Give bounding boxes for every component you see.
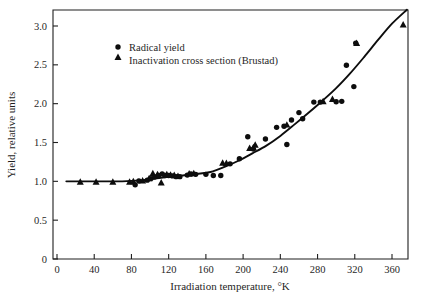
x-axis-tick-labels: 04080120160200240280320360 [54, 264, 400, 275]
y-tick-label: 2.0 [34, 98, 47, 109]
data-point-circle [311, 99, 316, 104]
data-point-circle [203, 172, 208, 177]
data-point-circle [353, 40, 358, 45]
data-point-circle [245, 134, 250, 139]
legend-marker-circle-icon [115, 44, 120, 49]
data-point-circle [300, 116, 305, 121]
data-point-circle [351, 84, 356, 89]
y-tick-label: 1.5 [34, 137, 47, 148]
legend-label-inactivation-cross-section: Inactivation cross section (Brustad) [129, 55, 279, 67]
x-tick-label: 80 [126, 264, 137, 275]
legend-label-radical-yield: Radical yield [129, 42, 185, 53]
x-tick-label: 120 [161, 264, 177, 275]
data-point-circle [333, 99, 338, 104]
data-point-circle [211, 173, 216, 178]
data-point-circle [289, 117, 294, 122]
y-axis-title: Yield, relative units [5, 92, 17, 178]
data-point-circle [132, 182, 137, 187]
data-point-circle [237, 156, 242, 161]
x-tick-label: 0 [54, 264, 59, 275]
x-tick-label: 320 [347, 264, 363, 275]
figure-container: 04080120160200240280320360 00.51.01.52.0… [0, 0, 423, 302]
y-tick-label: 0.5 [34, 215, 47, 226]
chart-canvas: 04080120160200240280320360 00.51.01.52.0… [0, 0, 423, 302]
series-inactivation-cross-section-markers [77, 21, 407, 186]
y-axis-tick-labels: 00.51.01.52.02.53.0 [34, 21, 47, 265]
data-point-circle [318, 99, 323, 104]
data-point-circle [177, 174, 182, 179]
y-tick-label: 3.0 [34, 21, 47, 32]
x-tick-label: 160 [198, 264, 214, 275]
x-tick-label: 40 [89, 264, 100, 275]
data-point-circle [263, 136, 268, 141]
data-point-circle [193, 172, 198, 177]
data-point-circle [284, 142, 289, 147]
x-tick-label: 200 [235, 264, 251, 275]
x-tick-label: 360 [384, 264, 400, 275]
legend-marker-triangle-icon [115, 54, 122, 60]
y-axis-ticks [53, 26, 58, 259]
data-point-triangle [400, 21, 407, 27]
data-point-circle [296, 110, 301, 115]
fitted-trend-curve [66, 10, 407, 182]
x-axis-ticks [57, 254, 392, 259]
data-point-circle [227, 161, 232, 166]
legend: Radical yield Inactivation cross section… [115, 42, 279, 67]
y-tick-label: 0 [42, 254, 47, 265]
x-tick-label: 280 [310, 264, 326, 275]
x-tick-label: 240 [272, 264, 288, 275]
data-point-circle [188, 171, 193, 176]
data-point-circle [339, 99, 344, 104]
data-point-circle [136, 178, 141, 183]
y-tick-label: 2.5 [34, 59, 47, 70]
y-tick-label: 1.0 [34, 176, 47, 187]
data-point-circle [218, 173, 223, 178]
x-axis-title: Irradiation temperature, °K [170, 280, 290, 292]
data-point-circle [344, 63, 349, 68]
plot-frame [53, 10, 408, 259]
data-point-triangle [158, 179, 165, 185]
data-point-circle [274, 125, 279, 130]
data-point-circle [281, 123, 286, 128]
data-point-circle [251, 146, 256, 151]
